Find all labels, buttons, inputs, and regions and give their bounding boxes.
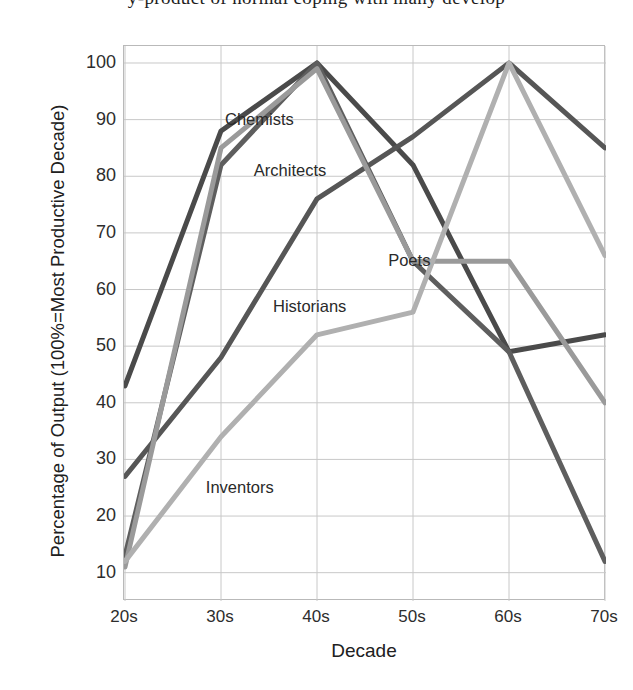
x-axis-title: Decade xyxy=(123,640,605,662)
x-tick-20s: 20s xyxy=(110,608,137,625)
y-tick-40: 40 xyxy=(70,393,116,411)
x-tick-60s: 60s xyxy=(494,608,521,625)
y-tick-100: 100 xyxy=(70,53,116,71)
y-tick-50: 50 xyxy=(70,336,116,354)
x-tick-30s: 30s xyxy=(206,608,233,625)
x-tick-70s: 70s xyxy=(590,608,617,625)
plot-area: ChemistsArchitectsHistoriansPoetsInvento… xyxy=(123,45,605,600)
y-axis-tick-labels: 102030405060708090100 xyxy=(60,45,116,600)
series-line-architects xyxy=(125,63,605,561)
y-tick-30: 30 xyxy=(70,449,116,467)
chart-figure: Percentage of Output (100%=Most Producti… xyxy=(0,22,633,690)
y-tick-80: 80 xyxy=(70,166,116,184)
y-tick-10: 10 xyxy=(70,563,116,581)
series-lines xyxy=(124,46,606,601)
y-tick-90: 90 xyxy=(70,110,116,128)
y-tick-60: 60 xyxy=(70,280,116,298)
series-line-inventors xyxy=(125,63,605,561)
y-tick-70: 70 xyxy=(70,223,116,241)
y-tick-20: 20 xyxy=(70,506,116,524)
x-tick-40s: 40s xyxy=(302,608,329,625)
running-body-text: y-product of normal coping with many dev… xyxy=(0,0,633,9)
x-tick-50s: 50s xyxy=(398,608,425,625)
series-line-poets xyxy=(125,69,605,567)
x-axis-tick-labels: 20s30s40s50s60s70s xyxy=(123,608,605,634)
